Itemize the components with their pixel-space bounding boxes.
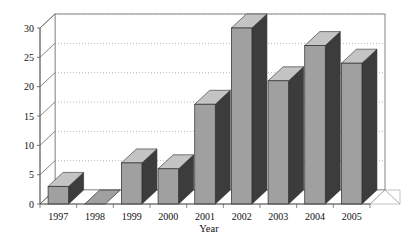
bar-side-face xyxy=(325,32,340,204)
y-tick-label: 10 xyxy=(24,140,34,151)
x-tick-label: 2003 xyxy=(268,211,288,222)
bar-side-face xyxy=(289,67,304,204)
bar-chart-3d: 051015202530 199719981999200020012002200… xyxy=(0,0,419,241)
bar-front-face xyxy=(158,169,179,204)
bar-front-face xyxy=(121,163,142,204)
x-axis-title: Year xyxy=(199,223,219,234)
y-tick-label: 25 xyxy=(24,52,34,63)
bar-front-face xyxy=(231,28,252,204)
bar xyxy=(195,90,231,204)
bar-front-face xyxy=(305,46,326,204)
bar-front-face xyxy=(48,186,69,204)
x-tick-label: 2001 xyxy=(195,211,215,222)
x-tick-label: 2005 xyxy=(342,211,362,222)
x-tick-label: 2004 xyxy=(305,211,325,222)
y-tick-label: 30 xyxy=(24,23,34,34)
x-tick-label: 2002 xyxy=(232,211,252,222)
y-tick-label: 15 xyxy=(24,111,34,122)
bar xyxy=(231,14,267,204)
bar-front-face xyxy=(268,81,289,204)
bar-side-face xyxy=(252,14,267,204)
x-tick-label: 1997 xyxy=(48,211,68,222)
y-tick-label: 5 xyxy=(29,169,34,180)
x-tick-label: 1998 xyxy=(85,211,105,222)
x-tick-label: 2000 xyxy=(158,211,178,222)
bar-front-face xyxy=(341,63,362,204)
bar xyxy=(341,49,377,204)
y-tick-label: 20 xyxy=(24,81,34,92)
bar-side-face xyxy=(215,90,230,204)
y-tick-label: 0 xyxy=(29,199,34,210)
bar-front-face xyxy=(195,104,216,204)
bar xyxy=(268,67,304,204)
bar xyxy=(305,32,341,204)
bar-side-face xyxy=(362,49,377,204)
x-tick-label: 1999 xyxy=(122,211,142,222)
chart-canvas: 051015202530 199719981999200020012002200… xyxy=(0,0,419,241)
